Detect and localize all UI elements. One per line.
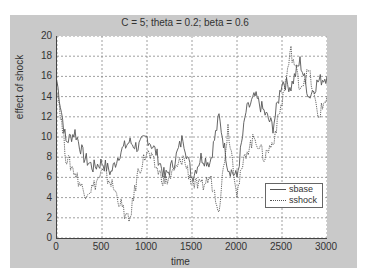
solid-line-swatch-icon: [270, 189, 286, 190]
legend: sbase sshock: [265, 183, 323, 208]
legend-item-sshock: sshock: [266, 195, 322, 206]
y-tick-label: 6: [32, 171, 52, 182]
y-tick-label: 16: [32, 70, 52, 81]
y-tick-label: 14: [32, 91, 52, 102]
y-axis-label: effect of shock: [14, 37, 25, 137]
y-tick-label: 20: [32, 30, 52, 41]
x-tick-label: 1500: [171, 241, 211, 252]
x-tick-label: 3000: [306, 241, 346, 252]
y-tick-label: 10: [32, 131, 52, 142]
x-tick-label: 2500: [261, 241, 301, 252]
y-tick-label: 18: [32, 50, 52, 61]
x-axis-label: time: [171, 256, 190, 267]
plot-area: [56, 36, 327, 239]
x-tick-label: 0: [36, 241, 76, 252]
dotted-line-swatch-icon: [270, 200, 286, 201]
x-tick-label: 500: [81, 241, 121, 252]
y-tick-label: 2: [32, 212, 52, 223]
y-tick-label: 4: [32, 192, 52, 203]
legend-item-sbase: sbase: [266, 184, 322, 195]
y-tick-label: 12: [32, 111, 52, 122]
chart-title: C = 5; theta = 0.2; beta = 0.6: [0, 17, 370, 28]
x-tick-label: 1000: [126, 241, 166, 252]
y-tick-label: 8: [32, 151, 52, 162]
x-tick-label: 2000: [216, 241, 256, 252]
